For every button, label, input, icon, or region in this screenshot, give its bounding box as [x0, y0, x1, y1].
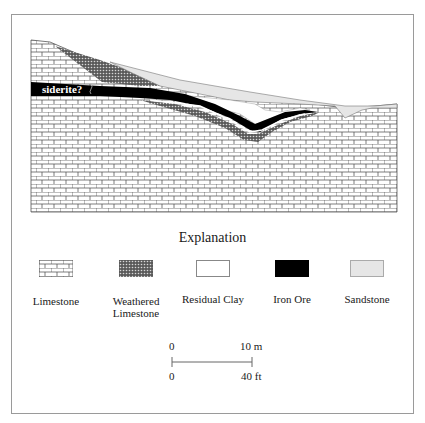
- legend-label: WeatheredLimestone: [96, 295, 176, 319]
- residual-clay-swatch: [196, 260, 230, 277]
- weathered-limestone-swatch: [119, 260, 153, 277]
- legend-item-weathered-limestone: WeatheredLimestone: [96, 260, 176, 319]
- legend-label: Sandstone: [327, 293, 407, 305]
- explanation-title: Explanation: [0, 230, 425, 246]
- scale-imperial-end: 40 ft: [241, 370, 261, 382]
- legend-label-line: Weathered: [113, 295, 160, 307]
- legend-label: Limestone: [16, 295, 96, 307]
- sandstone-swatch: [350, 260, 384, 277]
- scale-metric-start: 0: [169, 340, 175, 352]
- legend-item-limestone: Limestone: [16, 260, 96, 307]
- siderite-annotation: siderite?: [42, 83, 82, 95]
- scale-imperial-start: 0: [169, 370, 175, 382]
- legend-item-residual-clay: Residual Clay: [173, 260, 253, 305]
- legend-item-sandstone: Sandstone: [327, 260, 407, 305]
- legend-label-line: Limestone: [113, 307, 159, 319]
- legend-item-iron-ore: Iron Ore: [252, 260, 332, 305]
- limestone-swatch: [39, 260, 73, 277]
- legend-label: Residual Clay: [173, 293, 253, 305]
- iron-ore-swatch: [275, 260, 309, 277]
- geologic-cross-section: siderite?: [0, 0, 425, 423]
- scale-metric-end: 10 m: [240, 340, 262, 352]
- legend-label: Iron Ore: [252, 293, 332, 305]
